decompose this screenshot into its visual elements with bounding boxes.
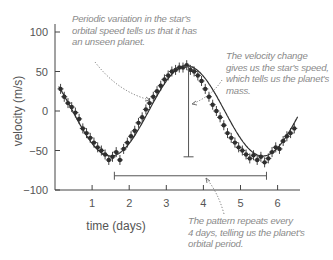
point-marker bbox=[192, 69, 196, 73]
point-marker bbox=[262, 160, 266, 164]
point-marker bbox=[233, 140, 237, 144]
data-point bbox=[210, 100, 216, 110]
point-marker bbox=[181, 65, 185, 69]
data-point bbox=[202, 84, 208, 94]
point-marker bbox=[81, 126, 85, 130]
x-tick-label: 5 bbox=[237, 197, 243, 209]
point-marker bbox=[147, 101, 151, 105]
point-marker bbox=[236, 145, 240, 149]
point-marker bbox=[62, 95, 66, 99]
point-marker bbox=[118, 158, 122, 162]
point-marker bbox=[77, 117, 81, 121]
arrow-periodic bbox=[95, 62, 150, 100]
point-marker bbox=[292, 126, 296, 130]
point-marker bbox=[125, 140, 129, 144]
point-marker bbox=[251, 153, 255, 157]
point-marker bbox=[114, 150, 118, 154]
point-marker bbox=[173, 68, 177, 72]
data-point bbox=[124, 138, 130, 148]
point-marker bbox=[162, 77, 166, 81]
point-marker bbox=[196, 73, 200, 77]
x-tick-label: 6 bbox=[275, 197, 281, 209]
point-marker bbox=[285, 134, 289, 138]
arrow-velocity bbox=[192, 80, 222, 104]
point-marker bbox=[88, 136, 92, 140]
data-point bbox=[217, 112, 223, 122]
annotation-periodic-variation: Periodic variation in the star's orbital… bbox=[72, 13, 197, 48]
point-marker bbox=[255, 158, 259, 162]
point-marker bbox=[66, 101, 70, 105]
point-marker bbox=[107, 158, 111, 162]
point-marker bbox=[95, 145, 99, 149]
point-marker bbox=[69, 105, 73, 109]
arrow-period bbox=[206, 178, 224, 214]
point-marker bbox=[270, 150, 274, 154]
point-marker bbox=[259, 155, 263, 159]
point-marker bbox=[210, 102, 214, 106]
point-marker bbox=[281, 139, 285, 143]
data-point bbox=[121, 144, 127, 154]
point-marker bbox=[214, 109, 218, 113]
point-marker bbox=[222, 123, 226, 127]
x-tick-label: 3 bbox=[163, 197, 169, 209]
point-marker bbox=[140, 115, 144, 119]
data-point bbox=[206, 92, 212, 102]
point-marker bbox=[203, 87, 207, 91]
y-tick-label: 50 bbox=[36, 66, 48, 78]
annotation-velocity-change: The velocity change gives us the star's … bbox=[226, 50, 329, 96]
data-point bbox=[221, 120, 227, 130]
point-marker bbox=[159, 84, 163, 88]
y-tick-label: 100 bbox=[30, 26, 48, 38]
x-axis-title: time (days) bbox=[86, 219, 145, 233]
point-marker bbox=[248, 156, 252, 160]
point-marker bbox=[288, 131, 292, 135]
y-axis-title: velocity (m/s) bbox=[11, 76, 25, 147]
data-point bbox=[213, 106, 219, 116]
point-marker bbox=[244, 152, 248, 156]
point-marker bbox=[151, 95, 155, 99]
point-marker bbox=[73, 110, 77, 114]
data-point bbox=[132, 126, 138, 136]
point-marker bbox=[266, 156, 270, 160]
point-marker bbox=[133, 129, 137, 133]
point-marker bbox=[240, 148, 244, 152]
point-marker bbox=[136, 121, 140, 125]
point-marker bbox=[277, 147, 281, 151]
point-marker bbox=[121, 147, 125, 151]
x-tick-label: 4 bbox=[200, 197, 206, 209]
point-marker bbox=[84, 131, 88, 135]
y-tick-label: −50 bbox=[29, 145, 48, 157]
data-point bbox=[139, 112, 145, 122]
x-tick-label: 1 bbox=[89, 197, 95, 209]
data-point bbox=[158, 81, 164, 91]
data-point bbox=[117, 155, 123, 165]
point-marker bbox=[155, 89, 159, 93]
data-point bbox=[154, 86, 160, 96]
point-marker bbox=[92, 140, 96, 144]
point-marker bbox=[218, 115, 222, 119]
point-marker bbox=[103, 152, 107, 156]
data-point bbox=[72, 108, 78, 118]
x-tick-label: 2 bbox=[126, 197, 132, 209]
point-marker bbox=[99, 148, 103, 152]
point-marker bbox=[199, 79, 203, 83]
point-marker bbox=[110, 155, 114, 159]
data-point bbox=[276, 144, 282, 154]
annotation-pattern-repeats: The pattern repeats every 4 days, tellin… bbox=[188, 215, 305, 250]
y-tick-label: 0 bbox=[42, 105, 48, 117]
data-point bbox=[128, 131, 134, 141]
point-marker bbox=[58, 87, 62, 91]
point-marker bbox=[225, 131, 229, 135]
data-point bbox=[150, 92, 156, 102]
data-point bbox=[76, 114, 82, 124]
point-marker bbox=[129, 134, 133, 138]
point-marker bbox=[144, 107, 148, 111]
point-marker bbox=[166, 73, 170, 77]
y-tick-label: −100 bbox=[23, 184, 48, 196]
point-marker bbox=[229, 136, 233, 140]
